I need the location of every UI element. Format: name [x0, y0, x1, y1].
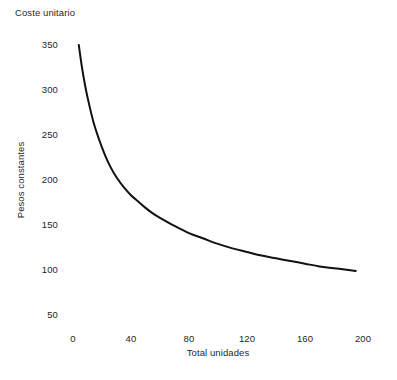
cost-curve-line — [79, 45, 356, 271]
chart-figure: Coste unitario Pesos constantes Total un… — [0, 0, 397, 380]
plot-area — [0, 0, 397, 380]
